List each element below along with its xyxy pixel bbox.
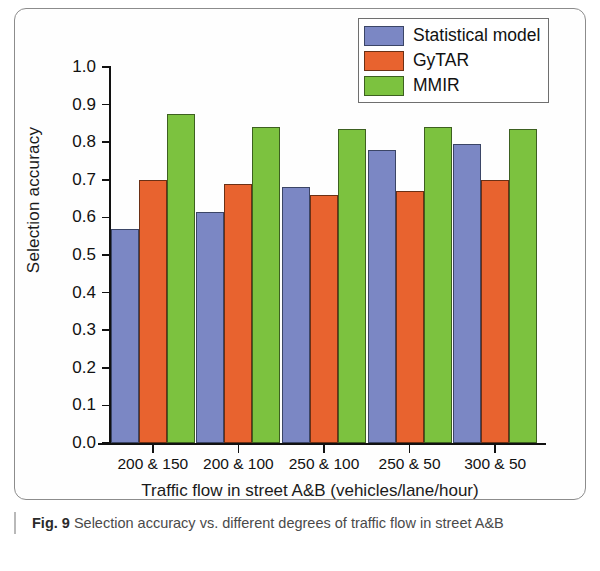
y-axis-title: Selection accuracy <box>24 70 44 330</box>
y-tick-label: 0.8 <box>48 132 96 152</box>
bar[interactable] <box>509 129 537 443</box>
y-tick-mark <box>102 254 109 256</box>
bar[interactable] <box>453 144 481 443</box>
legend-item[interactable]: Statistical model <box>364 23 540 48</box>
x-axis-line <box>98 443 546 445</box>
x-tick-mark <box>238 444 240 453</box>
bar[interactable] <box>111 229 139 443</box>
figure-caption-text: Selection accuracy vs. different degrees… <box>74 515 504 531</box>
y-tick-label: 0.4 <box>48 283 96 303</box>
y-tick-mark <box>102 66 109 68</box>
bar[interactable] <box>338 129 366 443</box>
y-tick-mark <box>102 217 109 219</box>
legend-item-label: GyTAR <box>413 50 469 71</box>
y-tick-mark <box>102 367 109 369</box>
bar-group <box>111 67 195 443</box>
bar[interactable] <box>282 187 310 443</box>
legend-swatch-icon <box>364 76 404 96</box>
y-tick-label: 0.1 <box>48 395 96 415</box>
bar[interactable] <box>224 184 252 443</box>
x-tick-mark <box>494 444 496 453</box>
legend-swatch-icon <box>364 26 404 46</box>
bar-group <box>196 67 280 443</box>
bar[interactable] <box>196 212 224 443</box>
x-axis-title: Traffic flow in street A&B (vehicles/lan… <box>60 481 560 501</box>
bar[interactable] <box>396 191 424 443</box>
bar[interactable] <box>310 195 338 443</box>
y-tick-label: 0.2 <box>48 358 96 378</box>
y-tick-mark <box>102 405 109 407</box>
legend-item[interactable]: MMIR <box>364 73 540 98</box>
y-tick-mark <box>102 104 109 106</box>
chart-legend: Statistical modelGyTARMMIR <box>358 18 549 103</box>
x-tick-mark <box>409 444 411 453</box>
bar[interactable] <box>481 180 509 443</box>
bar[interactable] <box>252 127 280 443</box>
chart-plot-region: Selection accuracy 0.00.10.20.30.40.50.6… <box>0 0 600 500</box>
y-tick-label: 0.9 <box>48 95 96 115</box>
x-tick-mark <box>152 444 154 453</box>
y-tick-label: 0.0 <box>48 433 96 453</box>
legend-item-label: MMIR <box>413 75 460 96</box>
y-tick-mark <box>102 329 109 331</box>
y-tick-mark <box>102 292 109 294</box>
bar-group <box>282 67 366 443</box>
bar-group <box>368 67 452 443</box>
legend-swatch-icon <box>364 51 404 71</box>
y-tick-label: 0.5 <box>48 245 96 265</box>
bar-group <box>453 67 537 443</box>
x-tick-mark <box>323 444 325 453</box>
y-tick-label: 1.0 <box>48 57 96 77</box>
bar[interactable] <box>424 127 452 443</box>
y-tick-label: 0.6 <box>48 207 96 227</box>
bar[interactable] <box>368 150 396 443</box>
y-tick-mark <box>102 179 109 181</box>
figure-caption: Fig. 9 Selection accuracy vs. different … <box>14 512 586 534</box>
bar[interactable] <box>167 114 195 443</box>
y-tick-label: 0.3 <box>48 320 96 340</box>
figure-number: Fig. 9 <box>32 515 70 531</box>
y-tick-label: 0.7 <box>48 170 96 190</box>
legend-item[interactable]: GyTAR <box>364 48 540 73</box>
bar[interactable] <box>139 180 167 443</box>
x-tick-label: 300 & 50 <box>435 455 555 473</box>
y-tick-mark <box>102 141 109 143</box>
legend-item-label: Statistical model <box>413 25 540 46</box>
bars-container <box>110 67 538 443</box>
